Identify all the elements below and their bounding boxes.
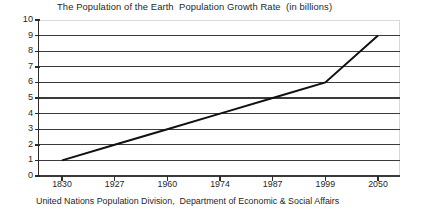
- y-axis-tick-label: 9: [3, 31, 33, 40]
- x-axis-tick-label: 1960: [158, 179, 178, 190]
- x-axis-tick-label: 1927: [105, 179, 125, 190]
- x-axis-tick-label: 2050: [368, 179, 388, 190]
- x-axis-tick-labels: 1830192719601974198719992050: [38, 179, 400, 192]
- y-axis-tick-label: 1: [3, 155, 33, 164]
- y-axis-tick-label: 3: [3, 124, 33, 133]
- y-axis-tick-label: 8: [3, 46, 33, 55]
- y-axis-tick-label: 7: [3, 62, 33, 71]
- y-axis-tick-labels: 109876543210: [0, 20, 33, 176]
- x-axis-tick-label: 1830: [52, 179, 72, 190]
- plot-canvas: [38, 20, 400, 176]
- chart-title: The Population of the Earth Population G…: [57, 1, 332, 13]
- y-axis-tick-label: 5: [3, 93, 33, 102]
- x-axis-tick-label: 1999: [316, 179, 336, 190]
- y-axis-tick-label: 4: [3, 109, 33, 118]
- population-growth-chart: The Population of the Earth Population G…: [0, 0, 428, 214]
- y-axis-tick-label: 2: [3, 140, 33, 149]
- plot-area: [38, 20, 400, 176]
- x-axis-tick-label: 1987: [263, 179, 283, 190]
- x-axis-tick-label: 1974: [210, 179, 230, 190]
- y-axis-tick-label: 10: [3, 15, 33, 24]
- chart-source-footer: United Nations Population Division, Depa…: [36, 196, 339, 207]
- y-axis-tick-label: 0: [3, 171, 33, 180]
- y-axis-tick-label: 6: [3, 77, 33, 86]
